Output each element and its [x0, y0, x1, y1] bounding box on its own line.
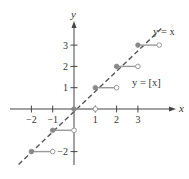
x-tick-label-neg1: −1: [47, 114, 58, 125]
y-tick-label-1: 1: [63, 82, 68, 93]
identity-line: [19, 27, 163, 164]
x-tick-label-1: 1: [93, 114, 98, 125]
floor-equation-label: y = [x]: [132, 77, 161, 88]
closed-endpoints: [29, 43, 140, 154]
open-endpoints: [50, 43, 161, 154]
x-tick-label-3: 3: [135, 114, 140, 125]
floor-steps: [31, 45, 159, 152]
floor-function-chart: −2 −1 1 2 3 3 2 1 −2 x y y = x y = [x]: [0, 0, 189, 179]
identity-equation-label: y = x: [153, 26, 175, 37]
x-tick-label-2: 2: [114, 114, 119, 125]
y-tick-label-2: 2: [63, 61, 68, 72]
y-tick-label-3: 3: [63, 40, 68, 51]
x-axis-label: x: [178, 102, 184, 114]
y-axis-label: y: [70, 8, 76, 20]
x-axis-arrow-icon: [169, 107, 176, 112]
y-axis-arrow-icon: [72, 21, 77, 28]
y-tick-label-neg2: −2: [57, 146, 68, 157]
x-tick-label-neg2: −2: [26, 114, 37, 125]
